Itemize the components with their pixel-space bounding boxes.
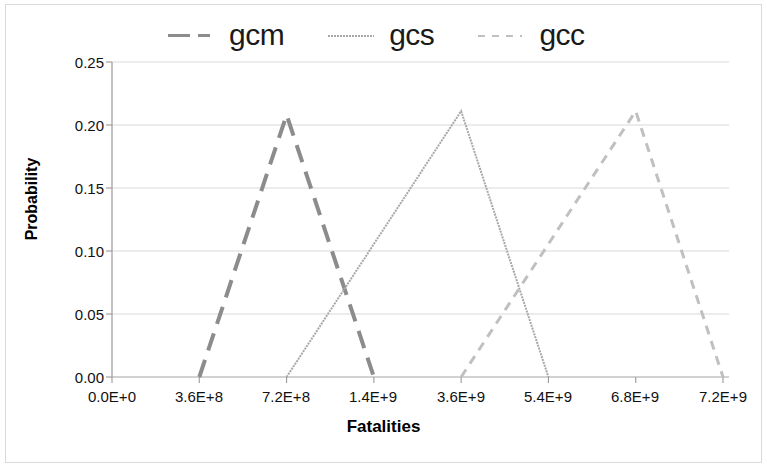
plot-area: 0.25 0.20 0.15 0.10 0.05 0.00 0.0E+0 3.6… (0, 0, 767, 468)
y-tick-marks (106, 62, 112, 377)
x-tick-label-3: 1.4E+9 (330, 389, 416, 404)
series-line-gcs (287, 111, 549, 377)
y-tick-label-4: 0.05 (52, 307, 104, 322)
y-tick-label-1: 0.20 (52, 118, 104, 133)
y-tick-label-3: 0.10 (52, 244, 104, 259)
x-tick-label-1: 3.6E+8 (156, 389, 242, 404)
y-tick-label-5: 0.00 (52, 370, 104, 385)
y-tick-label-0: 0.25 (52, 55, 104, 70)
x-tick-label-0: 0.0E+0 (69, 389, 155, 404)
x-tick-label-2: 7.2E+8 (243, 389, 329, 404)
x-tick-label-7: 7.2E+9 (680, 389, 766, 404)
y-axis-title: Probability (23, 129, 41, 269)
x-tick-label-4: 3.6E+9 (418, 389, 504, 404)
x-tick-marks (112, 377, 723, 383)
chart-screenshot: gcm gcs gcc 0.25 0.20 0.15 0.10 0. (0, 0, 767, 468)
series-line-gcm (199, 115, 374, 377)
series-line-gcc (461, 111, 723, 377)
x-tick-label-6: 6.8E+9 (592, 389, 678, 404)
gridlines (112, 62, 729, 377)
x-axis-title: Fatalities (0, 417, 767, 437)
x-tick-label-5: 5.4E+9 (505, 389, 591, 404)
y-tick-label-2: 0.15 (52, 181, 104, 196)
data-series-group (199, 111, 723, 377)
